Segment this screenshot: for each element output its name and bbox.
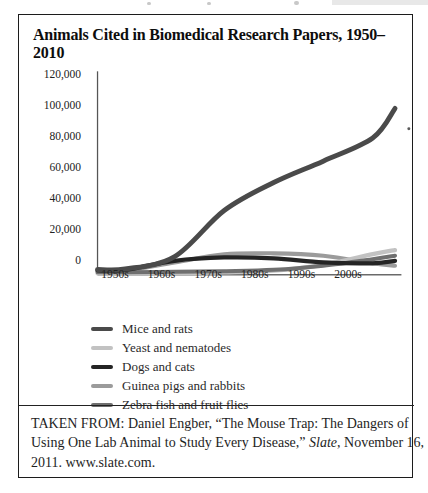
legend-swatch — [91, 327, 113, 331]
legend-item: Yeast and nematodes — [91, 338, 248, 357]
legend-swatch — [91, 346, 113, 350]
caption-line: Using One Lab Animal to Study Every Dise… — [31, 433, 403, 452]
page-edge-artifact — [147, 2, 151, 5]
x-tick-label: 1950s — [92, 268, 138, 280]
y-tick-label: 120,000 — [29, 68, 81, 80]
legend-item: Guinea pigs and rabbits — [91, 377, 248, 396]
page-edge-artifact — [207, 2, 211, 5]
page-edge-artifact — [294, 1, 299, 5]
x-tick-label: 1980s — [232, 268, 278, 280]
caption-divider — [19, 405, 414, 406]
page-edge-smudge — [332, 0, 428, 5]
y-tick-label: 0 — [29, 254, 81, 266]
figure-box: Animals Cited in Biomedical Research Pap… — [18, 14, 413, 478]
figure-title: Animals Cited in Biomedical Research Pap… — [33, 26, 403, 62]
stray-mark — [407, 127, 410, 130]
caption-line: TAKEN FROM: Daniel Engber, “The Mouse Tr… — [31, 414, 403, 433]
caption-source-name: Slate — [309, 435, 337, 450]
caption-text: Using One Lab Animal to Study Every Dise… — [31, 435, 309, 450]
legend-item: Dogs and cats — [91, 357, 248, 376]
figure-caption: TAKEN FROM: Daniel Engber, “The Mouse Tr… — [31, 414, 403, 472]
legend-label: Mice and rats — [122, 321, 193, 337]
legend-label: Dogs and cats — [122, 359, 195, 375]
legend-swatch — [91, 365, 113, 369]
y-tick-label: 80,000 — [29, 130, 81, 142]
chart-legend: Mice and ratsYeast and nematodesDogs and… — [91, 319, 248, 415]
y-tick-label: 20,000 — [29, 223, 81, 235]
caption-line: 2011. www.slate.com. — [31, 453, 403, 472]
x-tick-label: 1990s — [278, 268, 324, 280]
x-tick-label: 1970s — [185, 268, 231, 280]
x-tick-label: 2000s — [325, 268, 371, 280]
x-tick-label: 1960s — [139, 268, 185, 280]
y-tick-label: 100,000 — [29, 99, 81, 111]
legend-item: Mice and rats — [91, 319, 248, 338]
legend-swatch — [91, 384, 113, 388]
legend-label: Yeast and nematodes — [122, 340, 231, 356]
series-line-1 — [98, 108, 396, 270]
scanned-page: Animals Cited in Biomedical Research Pap… — [0, 0, 428, 493]
legend-label: Guinea pigs and rabbits — [122, 378, 245, 394]
y-tick-label: 60,000 — [29, 161, 81, 173]
y-tick-label: 40,000 — [29, 192, 81, 204]
caption-text: , November 16, — [337, 435, 424, 450]
